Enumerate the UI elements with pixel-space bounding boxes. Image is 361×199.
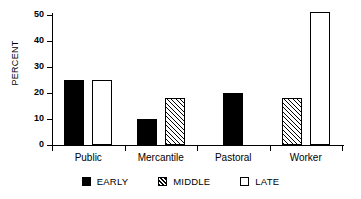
x-label-pastoral: Pastoral bbox=[193, 152, 273, 163]
x-label-worker: Worker bbox=[266, 152, 346, 163]
chart-legend: EARLYMIDDLELATE bbox=[0, 176, 361, 187]
legend-swatch-early-icon bbox=[82, 177, 91, 186]
x-group-tick-3 bbox=[270, 146, 271, 151]
bar-pastoral-early bbox=[223, 93, 243, 145]
legend-item-late[interactable]: LATE bbox=[240, 176, 279, 187]
bar-public-early bbox=[64, 80, 84, 145]
y-tick-label-0: 0 bbox=[22, 140, 44, 149]
x-group-tick-2 bbox=[197, 146, 198, 151]
bar-mercantile-early bbox=[137, 119, 157, 145]
legend-swatch-middle-icon bbox=[158, 177, 167, 186]
bar-chart: PERCENT 01020304050 PublicMercantilePast… bbox=[0, 0, 361, 199]
x-group-tick-0 bbox=[52, 146, 53, 151]
legend-label-early: EARLY bbox=[97, 176, 128, 187]
bar-mercantile-middle bbox=[165, 98, 185, 145]
x-label-mercantile: Mercantile bbox=[121, 152, 201, 163]
legend-swatch-late-icon bbox=[240, 177, 249, 186]
x-label-public: Public bbox=[48, 152, 128, 163]
bar-public-late bbox=[92, 80, 112, 145]
legend-label-middle: MIDDLE bbox=[173, 176, 210, 187]
x-axis-line bbox=[52, 145, 344, 146]
y-axis-label: PERCENT bbox=[10, 28, 20, 98]
y-tick-label-50: 50 bbox=[22, 10, 44, 19]
y-tick-label-20: 20 bbox=[22, 88, 44, 97]
bar-worker-middle bbox=[282, 98, 302, 145]
y-tick-label-40: 40 bbox=[22, 36, 44, 45]
plot-area bbox=[52, 15, 342, 145]
x-group-tick-4 bbox=[342, 146, 343, 151]
bar-worker-late bbox=[310, 12, 330, 145]
x-group-tick-1 bbox=[125, 146, 126, 151]
legend-item-early[interactable]: EARLY bbox=[82, 176, 128, 187]
legend-item-middle[interactable]: MIDDLE bbox=[158, 176, 210, 187]
legend-label-late: LATE bbox=[255, 176, 279, 187]
y-tick-label-30: 30 bbox=[22, 62, 44, 71]
y-tick-label-10: 10 bbox=[22, 114, 44, 123]
